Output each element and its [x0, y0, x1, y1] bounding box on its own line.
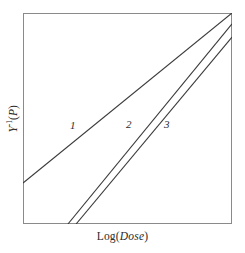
curve-label-2: 2 [126, 119, 132, 130]
y-axis-title: Y-1(P) [5, 71, 19, 167]
y-axis-title-exponent: -1 [5, 120, 14, 126]
x-axis-title-prefix: Log( [97, 230, 120, 242]
x-axis-title: Log(Dose) [0, 230, 245, 242]
dose-response-figure: 1 2 3 Log(Dose) Y-1(P) [0, 0, 245, 253]
x-axis-title-italic: Dose [120, 230, 144, 242]
y-axis-title-main: Y [7, 126, 19, 132]
curve-label-1: 1 [70, 120, 76, 131]
curve-line-3 [76, 37, 232, 224]
curve-label-3: 3 [164, 119, 170, 130]
x-axis-title-suffix: ) [144, 230, 148, 242]
y-axis-title-arg-open: ( [7, 116, 19, 120]
y-axis-title-arg-italic: P [7, 109, 19, 116]
y-axis-title-arg-close: ) [7, 105, 19, 109]
curve-line-2 [68, 24, 232, 224]
curve-line-1 [23, 13, 232, 183]
